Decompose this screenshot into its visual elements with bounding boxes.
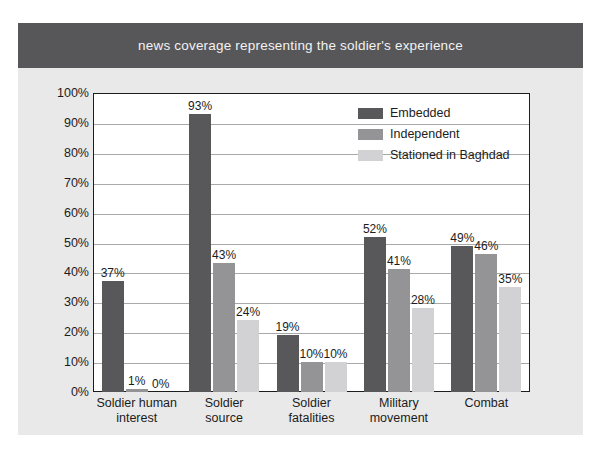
legend-label: Independent [390, 127, 460, 141]
y-tick-label: 30% [43, 295, 89, 309]
bar-group: 93%43%24% [189, 93, 259, 392]
bar[interactable] [388, 269, 410, 392]
bar-value-label: 19% [265, 320, 311, 334]
legend-label: Embedded [390, 106, 450, 120]
bar[interactable] [499, 287, 521, 392]
x-tick-line: movement [344, 411, 454, 426]
bar-value-label: 43% [201, 248, 247, 262]
bar-value-label: 10% [313, 347, 359, 361]
bar[interactable] [325, 362, 347, 392]
bar-value-label: 28% [400, 293, 446, 307]
legend-swatch-icon [358, 129, 383, 140]
bar[interactable] [412, 308, 434, 392]
y-tick-label: 50% [43, 236, 89, 250]
y-tick-label: 20% [43, 325, 89, 339]
y-tick-label: 10% [43, 355, 89, 369]
chart-legend: EmbeddedIndependentStationed in Baghdad [358, 104, 528, 167]
y-axis-ticks: 0%10%20%30%40%50%60%70%80%90%100% [39, 93, 89, 392]
bar[interactable] [213, 263, 235, 392]
bar-group: 19%10%10% [277, 93, 347, 392]
bar-value-label: 46% [463, 239, 509, 253]
legend-swatch-icon [358, 150, 383, 161]
y-tick-label: 90% [43, 116, 89, 130]
y-tick-label: 80% [43, 146, 89, 160]
legend-item[interactable]: Independent [358, 125, 528, 143]
y-tick-label: 60% [43, 206, 89, 220]
bar[interactable] [301, 362, 323, 392]
y-tick-label: 40% [43, 265, 89, 279]
chart-figure: news coverage representing the soldier's… [0, 0, 598, 452]
bar-group: 37%1%0% [102, 93, 172, 392]
page-title: news coverage representing the soldier's… [138, 38, 463, 53]
x-tick-line: Combat [431, 396, 541, 411]
legend-item[interactable]: Stationed in Baghdad [358, 146, 528, 164]
bar-value-label: 0% [138, 377, 184, 391]
y-tick-label: 100% [43, 86, 89, 100]
y-tick-label: 70% [43, 176, 89, 190]
bar-value-label: 41% [376, 254, 422, 268]
bar[interactable] [277, 335, 299, 392]
bar-value-label: 24% [225, 305, 271, 319]
bar-value-label: 37% [90, 266, 136, 280]
bar[interactable] [451, 246, 473, 393]
bar-value-label: 35% [487, 272, 533, 286]
x-axis-ticks: Soldier humaninterestSoldiersourceSoldie… [93, 396, 530, 438]
title-banner: news coverage representing the soldier's… [18, 23, 583, 68]
bar[interactable] [237, 320, 259, 392]
legend-swatch-icon [358, 108, 383, 119]
legend-label: Stationed in Baghdad [390, 148, 510, 162]
x-tick-label: Combat [431, 396, 541, 411]
bar-value-label: 93% [177, 99, 223, 113]
bar-value-label: 52% [352, 222, 398, 236]
legend-item[interactable]: Embedded [358, 104, 528, 122]
